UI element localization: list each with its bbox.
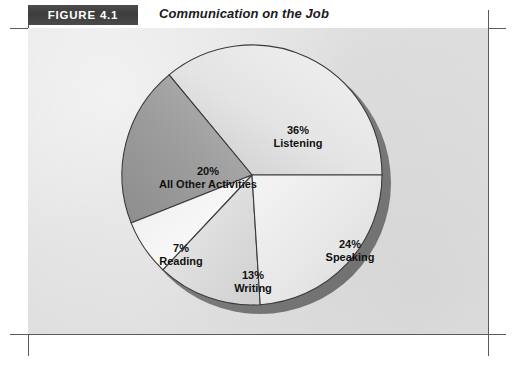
- pie-label-writing-percent: 13%: [210, 269, 296, 282]
- pie-label-reading: 7% Reading: [138, 242, 224, 268]
- pie-label-listening-percent: 36%: [243, 124, 353, 137]
- pie-label-all-other-activities: 20% All Other Activities: [138, 165, 278, 191]
- figure-number-label: FIGURE 4.1: [48, 9, 119, 21]
- figure-page: FIGURE 4.1 Communication on the Job: [0, 0, 516, 368]
- pie-label-speaking-percent: 24%: [300, 238, 400, 251]
- pie-label-writing: 13% Writing: [210, 269, 296, 295]
- pie-label-all-other-percent: 20%: [138, 165, 278, 178]
- figure-number-badge: FIGURE 4.1: [28, 5, 138, 25]
- pie-chart: 36% Listening 24% Speaking 13% Writing 7…: [28, 28, 488, 334]
- pie-label-writing-name: Writing: [210, 282, 296, 295]
- pie-label-listening-name: Listening: [243, 137, 353, 150]
- crop-mark-right-vertical: [488, 10, 489, 356]
- pie-label-reading-percent: 7%: [138, 242, 224, 255]
- pie-label-all-other-name: All Other Activities: [138, 178, 278, 191]
- pie-label-speaking-name: Speaking: [300, 251, 400, 264]
- pie-label-reading-name: Reading: [138, 255, 224, 268]
- figure-title: Communication on the Job: [159, 6, 329, 21]
- pie-label-speaking: 24% Speaking: [300, 238, 400, 264]
- pie-label-listening: 36% Listening: [243, 124, 353, 150]
- figure-header: FIGURE 4.1 Communication on the Job: [28, 4, 488, 28]
- crop-mark-bottom-horizontal: [10, 334, 506, 335]
